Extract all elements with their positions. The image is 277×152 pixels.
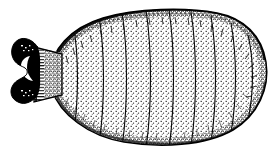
illustration-canvas: Segmented invertebrate dorsal view line … bbox=[0, 0, 277, 152]
figure-root: Segmented invertebrate dorsal view line … bbox=[0, 0, 277, 152]
